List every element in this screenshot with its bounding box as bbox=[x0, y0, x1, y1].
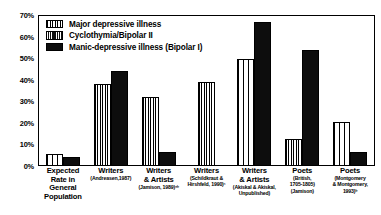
bar bbox=[159, 152, 176, 165]
x-axis-group-label: ExpectedRate inGeneralPopulation bbox=[39, 167, 87, 215]
bar bbox=[333, 122, 350, 165]
bar bbox=[254, 22, 271, 165]
legend-item: Cyclothymia/Bipolar II bbox=[46, 31, 202, 41]
manic-depressive-swatch bbox=[46, 43, 63, 52]
y-axis-tick: 30% bbox=[20, 97, 34, 106]
bar bbox=[350, 152, 367, 165]
y-axis-tick: 10% bbox=[20, 140, 34, 149]
bar bbox=[46, 154, 63, 165]
legend-item-label: Major depressive illness bbox=[69, 20, 161, 29]
legend-item: Manic-depressive illness (Bipolar I) bbox=[46, 42, 202, 52]
x-axis-label-line: & Artists bbox=[136, 176, 182, 185]
bar bbox=[285, 139, 302, 165]
y-axis-tick: 0% bbox=[24, 162, 34, 171]
y-axis-tick: 20% bbox=[20, 118, 34, 127]
legend-item: Major depressive illness bbox=[46, 19, 202, 29]
x-axis-labels: ExpectedRate inGeneralPopulationWriters(… bbox=[39, 167, 374, 215]
x-axis-group-label: Poets(British,1705-1805)(Jamison) bbox=[278, 167, 326, 215]
x-axis-label-line: Population bbox=[40, 193, 86, 202]
x-axis-group-label: Writers(Andreasen,1987) bbox=[87, 167, 135, 215]
legend-item-label: Manic-depressive illness (Bipolar I) bbox=[69, 43, 202, 52]
bar bbox=[142, 97, 159, 165]
bar-chart: 70%60%50%40%30%20%10%0% Major depressive… bbox=[0, 0, 381, 215]
bar bbox=[111, 71, 128, 165]
y-axis: 70%60%50%40%30%20%10%0% bbox=[0, 15, 38, 166]
x-axis-label-line: 1993)ᵇ bbox=[327, 189, 373, 195]
bar-group bbox=[278, 16, 326, 165]
x-axis-label-line: & Artists bbox=[231, 176, 277, 185]
x-axis-label-line: (Jamison) bbox=[279, 189, 325, 195]
bar bbox=[198, 82, 215, 165]
chart-legend: Major depressive illnessCyclothymia/Bipo… bbox=[46, 19, 202, 52]
bar bbox=[63, 157, 80, 166]
y-axis-tick: 40% bbox=[20, 75, 34, 84]
x-axis-group-label: Writers& Artists(Akiskal & Akiskal,Unpub… bbox=[230, 167, 278, 215]
bar-group bbox=[230, 16, 278, 165]
x-axis-group-label: Writers& Artists(Jamison, 1989)ᵃᵇ bbox=[135, 167, 183, 215]
x-axis-label-line: (Andreasen,1987) bbox=[88, 176, 134, 182]
x-axis-group-label: Writers(Schildkraut &Hirshfeld, 1990)ᶜ bbox=[183, 167, 231, 215]
bar bbox=[237, 59, 254, 165]
bar bbox=[94, 84, 111, 165]
legend-item-label: Cyclothymia/Bipolar II bbox=[69, 31, 153, 40]
x-axis-label-line: (Jamison, 1989)ᵃᵇ bbox=[136, 185, 182, 191]
y-axis-tick: 60% bbox=[20, 32, 34, 41]
x-axis-label-line: Hirshfeld, 1990)ᶜ bbox=[184, 182, 230, 188]
cyclothymia-swatch bbox=[46, 31, 63, 40]
y-axis-tick: 70% bbox=[20, 11, 34, 20]
bar bbox=[302, 50, 319, 165]
major-depressive-swatch bbox=[46, 20, 63, 29]
x-axis-label-line: Unpublished) bbox=[231, 191, 277, 197]
y-axis-tick: 50% bbox=[20, 54, 34, 63]
bar-group bbox=[326, 16, 374, 165]
x-axis-group-label: Poets(Montgomery& Montgomery,1993)ᵇ bbox=[326, 167, 374, 215]
